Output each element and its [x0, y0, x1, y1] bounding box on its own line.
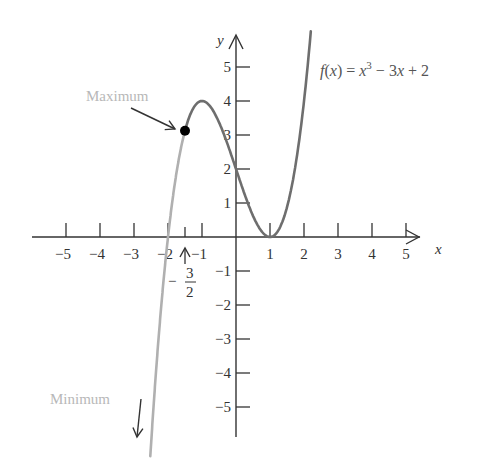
svg-text:3: 3	[186, 265, 194, 281]
y-tick-label: 4	[224, 93, 232, 109]
curve-restricted-branch	[150, 131, 185, 456]
y-tick-label: 5	[224, 59, 232, 75]
y-axis-label: y	[215, 32, 224, 48]
function-label: f(x) = x3 − 3x + 2	[320, 59, 429, 80]
maximum-point-dot	[180, 126, 190, 136]
x-tick-label: −5	[55, 246, 71, 262]
maximum-annotation: Maximum	[86, 88, 175, 129]
minimum-arrow-icon	[137, 399, 141, 437]
y-tick-label: −3	[215, 331, 231, 347]
x-tick-label: 3	[334, 246, 342, 262]
x-tick-label: 5	[402, 246, 410, 262]
y-tick-label: 2	[224, 161, 232, 177]
x-tick-label: 4	[368, 246, 376, 262]
function-graph: −5−4−3−2−112345 x 54321−1−2−3−4−5 y f(x)…	[0, 0, 495, 465]
x-tick-label: −3	[123, 246, 139, 262]
x-tick-label: −4	[89, 246, 105, 262]
svg-text:2: 2	[186, 284, 194, 300]
x-axis-label: x	[434, 241, 442, 257]
maximum-label: Maximum	[86, 88, 149, 104]
svg-text:−: −	[168, 273, 176, 289]
y-tick-label: −4	[215, 365, 231, 381]
x-tick-label: 2	[300, 246, 308, 262]
curve-main-branch	[185, 31, 311, 237]
y-axis: 54321−1−2−3−4−5 y	[215, 32, 250, 437]
minimum-annotation: Minimum	[50, 391, 141, 437]
x-tick-label: 1	[266, 246, 274, 262]
x-tick-label: −1	[191, 246, 207, 262]
x-axis: −5−4−3−2−112345 x	[32, 223, 442, 262]
y-tick-label: −5	[215, 399, 231, 415]
y-tick-label: 1	[224, 195, 232, 211]
maximum-arrow-icon	[131, 108, 175, 129]
y-tick-label: −1	[215, 263, 231, 279]
y-tick-label: −2	[215, 297, 231, 313]
minimum-label: Minimum	[50, 391, 110, 407]
